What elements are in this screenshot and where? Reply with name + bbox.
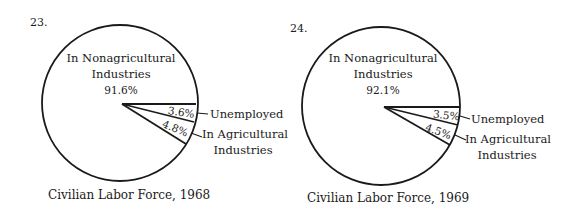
pie-graphic-1969 bbox=[288, 0, 576, 214]
label-agricultural: In Agricultural Industries bbox=[202, 126, 284, 158]
pie-chart-1968: 23. In Nonagricultural Industries 91.6% … bbox=[0, 0, 288, 214]
label-agricultural: In Agricultural Industries bbox=[465, 131, 549, 163]
label-unemployed: Unemployed bbox=[210, 106, 283, 122]
chart-caption: Civilian Labor Force, 1968 bbox=[48, 188, 210, 202]
chart-caption: Civilian Labor Force, 1969 bbox=[307, 191, 469, 205]
label-unemployed: Unemployed bbox=[471, 111, 544, 127]
figure-number: 23. bbox=[30, 16, 48, 29]
figure-number: 24. bbox=[290, 22, 308, 35]
value-nonagricultural: 91.6% bbox=[62, 82, 180, 98]
pie-chart-1969: 24. In Nonagricultural Industries 92.1% … bbox=[288, 0, 576, 214]
value-nonagricultural: 92.1% bbox=[324, 82, 442, 98]
label-nonagricultural: In Nonagricultural Industries 92.1% bbox=[324, 50, 442, 98]
label-nonagricultural: In Nonagricultural Industries 91.6% bbox=[62, 50, 180, 98]
